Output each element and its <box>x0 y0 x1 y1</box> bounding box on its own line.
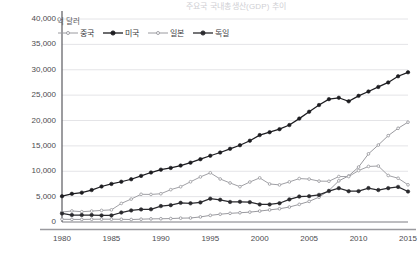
data-point <box>60 194 64 198</box>
data-point <box>298 177 301 180</box>
data-point <box>60 212 64 216</box>
x-axis-tick-label: 1985 <box>91 234 131 243</box>
y-axis-tick-label: 5,000 <box>8 192 56 201</box>
data-point <box>209 197 213 201</box>
data-point <box>367 90 371 94</box>
x-axis-tick-label: 1980 <box>42 234 82 243</box>
data-point <box>228 147 232 151</box>
y-axis-tick-label: 15,000 <box>8 141 56 150</box>
data-point <box>347 100 351 104</box>
data-point <box>228 200 232 204</box>
y-axis-tick-label: 35,000 <box>8 39 56 48</box>
y-axis-tick-label: 40,000 <box>8 14 56 23</box>
data-point <box>120 202 123 205</box>
data-point <box>406 71 410 75</box>
legend-item-일본[interactable]: 일본 <box>148 27 184 38</box>
data-point <box>268 183 271 186</box>
data-point <box>367 165 370 168</box>
data-point <box>219 213 222 216</box>
data-point <box>179 201 183 205</box>
legend-item-독일[interactable]: 독일 <box>193 27 229 38</box>
data-point <box>357 169 360 172</box>
data-point <box>386 81 390 85</box>
data-point <box>139 208 143 212</box>
data-point <box>120 211 124 215</box>
data-point <box>130 198 133 201</box>
data-point <box>347 189 351 193</box>
legend-marker-icon <box>103 28 123 38</box>
y-axis-unit-label: 억 달러 <box>57 15 80 26</box>
data-point <box>367 153 370 156</box>
legend-marker-icon <box>193 28 213 38</box>
data-point <box>218 151 222 155</box>
data-point <box>90 213 94 217</box>
data-point <box>268 130 272 134</box>
data-point <box>308 178 311 181</box>
chart-legend: 중국미국일본독일 <box>58 26 229 39</box>
legend-item-중국[interactable]: 중국 <box>58 27 94 38</box>
series-line-미국 <box>62 72 408 196</box>
data-point <box>298 117 302 121</box>
data-point <box>357 166 360 169</box>
data-point <box>150 218 153 221</box>
data-point <box>328 180 331 183</box>
data-point <box>239 185 242 188</box>
data-point <box>238 200 242 204</box>
data-point <box>149 208 153 212</box>
data-point <box>377 165 380 168</box>
data-point <box>199 176 202 179</box>
data-point <box>357 94 361 98</box>
data-point <box>317 193 321 197</box>
data-point <box>397 177 400 180</box>
data-point <box>140 218 143 221</box>
data-point <box>110 182 114 186</box>
data-point <box>199 157 203 161</box>
data-point <box>179 185 182 188</box>
data-point <box>258 133 262 137</box>
data-point <box>298 195 302 199</box>
data-point <box>377 188 381 192</box>
x-axis-tick-label: 1990 <box>141 234 181 243</box>
data-point <box>248 200 252 204</box>
data-point <box>288 198 292 202</box>
data-point <box>209 214 212 217</box>
data-point <box>70 213 74 217</box>
data-point <box>71 218 74 221</box>
data-point <box>318 180 321 183</box>
data-point <box>70 192 74 196</box>
data-point <box>140 193 143 196</box>
data-point <box>100 185 104 189</box>
data-point <box>238 143 242 147</box>
data-point <box>308 200 311 203</box>
data-point <box>387 134 390 137</box>
y-axis-tick-label: 30,000 <box>8 65 56 74</box>
data-point <box>367 186 371 190</box>
data-point <box>357 189 361 193</box>
data-point <box>278 207 281 210</box>
data-point <box>100 218 103 221</box>
legend-label: 미국 <box>125 27 139 38</box>
data-point <box>239 211 242 214</box>
data-point <box>71 210 74 213</box>
data-point <box>278 201 282 205</box>
legend-label: 중국 <box>80 27 94 38</box>
data-point <box>307 110 311 114</box>
data-point <box>258 177 261 180</box>
data-point <box>347 175 350 178</box>
x-axis-tick-label: 2010 <box>339 234 379 243</box>
data-point <box>189 180 192 183</box>
legend-item-미국[interactable]: 미국 <box>103 27 139 38</box>
data-point <box>179 217 182 220</box>
data-point <box>209 171 212 174</box>
data-point <box>129 177 133 181</box>
data-point <box>199 201 203 205</box>
data-point <box>149 171 153 175</box>
data-point <box>179 164 183 168</box>
data-point <box>337 180 340 183</box>
data-point <box>327 189 331 193</box>
data-point <box>397 127 400 130</box>
data-point <box>80 213 84 217</box>
legend-label: 일본 <box>170 27 184 38</box>
data-point <box>189 161 193 165</box>
data-point <box>258 210 261 213</box>
